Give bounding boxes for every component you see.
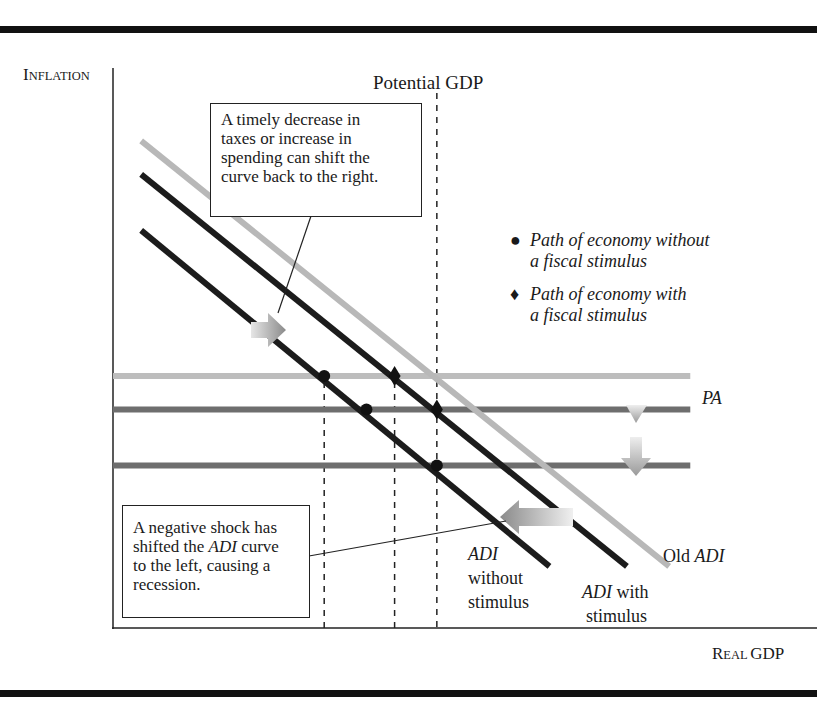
path-points (318, 366, 443, 472)
callout-line: taxes or increase in (221, 129, 411, 148)
old-adi-label: Old ADI (663, 546, 725, 566)
callout-line: curve back to the right. (221, 167, 411, 186)
diamond-marker-icon: ♦ (510, 284, 519, 305)
negative-shock-callout: A negative shock has shifted the ADI cur… (122, 505, 310, 618)
adi-with-label: ADI with stimulus (581, 582, 653, 626)
legend-item-with-stimulus: ♦ Path of economy with a fiscal stimulus (510, 284, 810, 326)
legend-text: Path of economy without (530, 230, 810, 251)
legend-text: a fiscal stimulus (530, 251, 810, 272)
x-axis-label: REAL GDP (712, 644, 784, 663)
callout-line: spending can shift the (221, 148, 411, 167)
callout-line: recession. (133, 575, 299, 594)
path-point-without-stimulus (318, 370, 330, 382)
potential-gdp-label: Potential GDP (373, 72, 483, 93)
adi-without-label: ADI without stimulus (467, 544, 529, 612)
circle-marker-icon: ● (510, 230, 521, 251)
callout-line: A negative shock has (133, 518, 299, 537)
path-point-without-stimulus (431, 460, 443, 472)
shift-left-arrow (500, 500, 573, 534)
callout-line: to the left, causing a (133, 556, 299, 575)
pa-lines (113, 376, 690, 466)
pa-down-arrow-2 (621, 437, 651, 476)
y-axis-label: INFLATION (23, 65, 90, 84)
legend-item-without-stimulus: ● Path of economy without a fiscal stimu… (510, 230, 810, 272)
pa-down-arrow-1 (626, 405, 647, 423)
bottom-rule (0, 690, 817, 697)
callout-line: A timely decrease in (221, 110, 411, 129)
fiscal-stimulus-callout: A timely decrease in taxes or increase i… (210, 103, 422, 217)
legend: ● Path of economy without a fiscal stimu… (510, 230, 810, 338)
path-point-without-stimulus (360, 404, 372, 416)
legend-text: a fiscal stimulus (530, 305, 810, 326)
top-rule (0, 26, 817, 33)
legend-text: Path of economy with (530, 284, 810, 305)
callout-line: shifted the ADI curve (133, 537, 299, 556)
pa-label: PA (701, 388, 723, 408)
